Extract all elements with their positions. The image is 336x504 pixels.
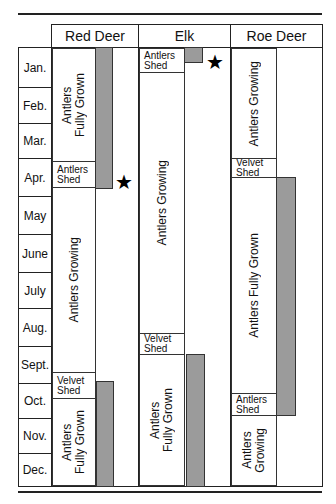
month-aug: Aug. [18,308,52,347]
header-elk: Elk [138,24,231,48]
red-deer-gray-bar-late [96,381,114,487]
month-apr: Apr. [18,158,52,197]
elk-fully-grown: AntlersFully Grown [139,354,185,486]
elk-gray-bar-late [186,354,205,487]
header-red-deer: Red Deer [51,24,139,48]
month-feb: Feb. [18,87,52,124]
month-sept: Sept. [18,346,52,384]
red-deer-gray-bar-early [95,47,113,189]
month-mar: Mar. [18,123,52,159]
month-dec: Dec. [18,453,52,487]
elk-gray-bar-early [184,47,203,63]
month-may: May [18,196,52,235]
month-july: July [18,272,52,309]
red-deer-velvet-shed: VelvetShed [52,372,96,399]
roe-deer-velvet-shed: VelvetShed [231,158,277,178]
red-deer-antlers-growing: Antlers Growing [52,187,96,373]
star-icon: ★ [206,52,224,72]
elk-antlers-shed: AntlersShed [139,48,185,73]
red-deer-antlers-shed: AntlersShed [52,161,96,188]
star-icon: ★ [115,172,133,192]
roe-deer-gray-bar [276,177,296,416]
bottom-rule [18,491,322,493]
roe-deer-fully-grown: Antlers Fully Grown [231,177,277,394]
elk-velvet-shed: VelvetShed [139,333,185,355]
top-rule [18,13,322,15]
red-deer-fully-grown-late: AntlersFully Grown [52,398,96,486]
month-jan: Jan. [18,47,52,88]
roe-deer-antlers-growing-late: AntlersGrowing [231,415,277,486]
elk-antlers-growing: Antlers Growing [139,72,185,334]
month-oct: Oct. [18,383,52,419]
roe-deer-antlers-shed: AntlersShed [231,393,277,416]
header-roe-deer: Roe Deer [230,24,323,48]
red-deer-fully-grown-early: AntlersFully Grown [52,48,96,162]
month-nov: Nov. [18,418,52,454]
roe-deer-antlers-growing-early: Antlers Growing [231,48,277,159]
month-june: June [18,234,52,273]
